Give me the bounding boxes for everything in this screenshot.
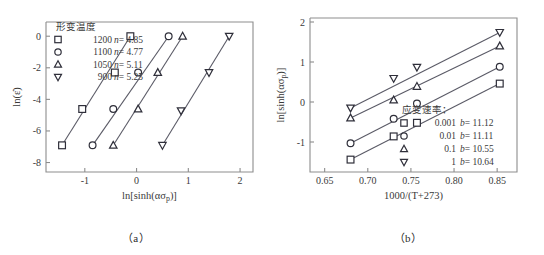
x-axis-title: ln[sinh(ασp)] [122,190,177,203]
x-axis-title: 1000/(T+273) [384,190,443,202]
data-point [390,76,397,83]
data-point [165,33,172,40]
legend-marker [54,61,61,67]
data-point [159,142,166,149]
legend-marker [54,74,61,80]
data-point [496,80,503,87]
legend-series-slope: n= 4.77 [114,47,143,57]
y-axis-title: ln[sinh(ασp)] [275,68,288,123]
y-tick-label: 1 [300,57,305,68]
x-tick-label: 0.65 [316,175,334,186]
panel-b-caption: （b） [272,229,544,245]
data-point [225,33,232,40]
x-tick-label: 2 [238,175,243,186]
data-point [496,42,503,49]
data-point [179,32,186,39]
legend-series-label: 900 [98,72,113,82]
legend-marker [55,36,61,42]
y-tick-label: -4 [33,94,41,105]
data-point [347,156,354,163]
data-point [390,115,397,122]
y-tick-label: 2 [300,17,305,28]
data-point [89,142,96,149]
scatter-plot-b: 0.650.700.750.800.85210-11000/(T+273)ln[… [272,0,544,215]
legend-series-label: 0.001 [435,118,457,128]
chart-panel-b: 0.650.700.750.800.85210-11000/(T+273)ln[… [272,0,544,255]
y-tick-label: -8 [33,157,41,168]
legend-marker [400,159,407,165]
x-tick-label: 0 [134,175,139,186]
legend-series-label: 1 [451,157,456,167]
scatter-plot-a: -10120-2-4-6-8ln[sinh(ασp)]ln(ε̇)形变温度120… [0,0,272,215]
data-point [390,96,397,103]
legend-series-slope: n= 5.11 [114,60,143,70]
y-tick-label: -6 [33,125,41,136]
legend-series-slope: b= 10.64 [460,157,494,167]
x-tick-label: 1 [186,175,191,186]
plot-frame [46,22,253,172]
data-point [496,30,503,37]
legend-series-slope: b= 10.55 [460,144,494,154]
data-point [59,142,66,149]
legend-title: 形变温度 [56,21,96,32]
legend-series-slope: n= 5.25 [114,72,143,82]
data-point [496,63,503,70]
data-point [347,140,354,147]
panel-a-caption: （a） [0,229,272,245]
data-point [110,141,117,148]
legend-marker [401,120,407,126]
x-tick-label: 0.80 [445,175,463,186]
legend-series-label: 1050 [93,60,112,70]
y-tick-label: -2 [33,62,41,73]
data-point [134,105,141,112]
data-point [414,119,421,126]
legend-series-label: 1100 [93,47,112,57]
data-point [390,133,397,140]
series-trendline [351,32,500,108]
legend-series-slope: n= 4.85 [114,35,143,45]
data-point [110,106,117,113]
figure-container: -10120-2-4-6-8ln[sinh(ασp)]ln(ε̇)形变温度120… [0,0,544,255]
x-tick-label: -1 [81,175,89,186]
legend-title: 应变速率： [402,104,452,115]
y-tick-label: 0 [300,97,305,108]
x-tick-label: 0.70 [359,175,377,186]
legend-marker [401,133,407,139]
legend-series-label: 1200 [93,35,112,45]
legend-series-slope: b= 11.12 [460,118,494,128]
data-point [413,82,420,89]
data-point [347,114,354,121]
data-point [347,105,354,112]
legend-series-slope: b= 11.11 [460,131,493,141]
data-point [413,64,420,71]
legend-series-label: 0.01 [439,131,456,141]
x-tick-label: 0.75 [402,175,420,186]
y-tick-label: 0 [36,31,41,42]
data-point [79,106,86,113]
legend-series-label: 0.1 [444,144,456,154]
y-tick-label: -1 [297,137,305,148]
legend-marker [55,49,61,55]
legend-marker [400,145,407,151]
x-tick-label: 0.85 [488,175,506,186]
chart-panel-a: -10120-2-4-6-8ln[sinh(ασp)]ln(ε̇)形变温度120… [0,0,272,255]
y-axis-title: ln(ε̇) [11,87,23,107]
